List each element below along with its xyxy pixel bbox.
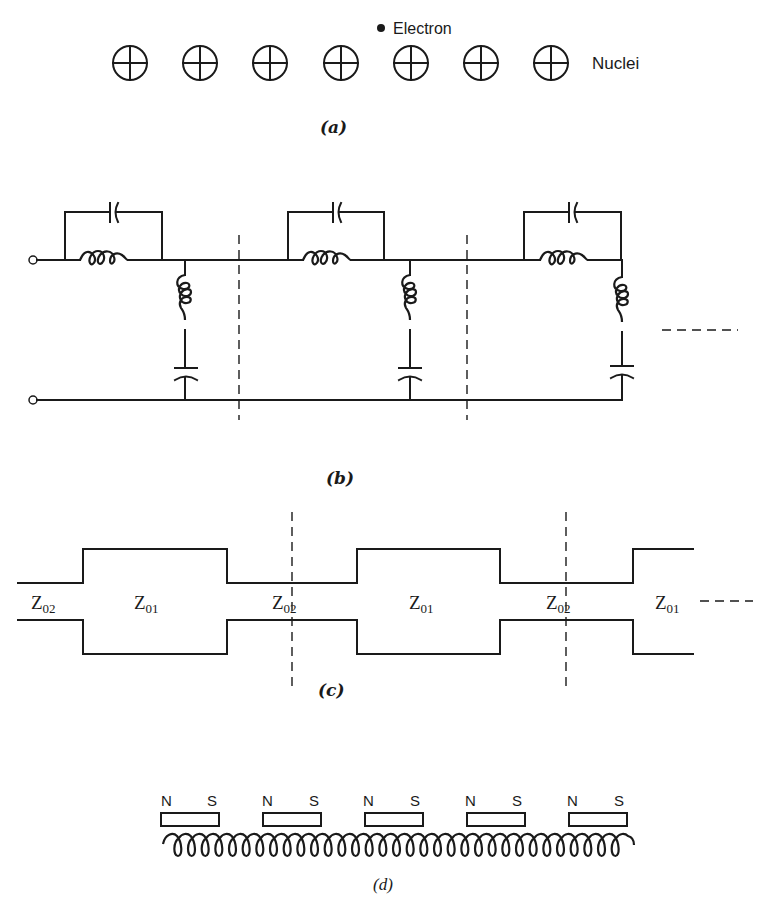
north-pole-label: N	[262, 792, 273, 809]
nucleus-icon	[113, 46, 147, 80]
bar-magnet: N S	[465, 792, 525, 826]
nucleus-icon	[324, 46, 358, 80]
north-pole-label: N	[161, 792, 172, 809]
nuclei-label: Nuclei	[592, 54, 639, 73]
caption-a: (a)	[320, 117, 347, 137]
impedance-label: Z02	[272, 592, 297, 616]
panel-c-stepped-line: Z02 Z01 Z02 Z01 Z02 Z01 (c)	[18, 512, 753, 700]
figure-canvas: Electron Nuclei (a)	[0, 0, 773, 914]
north-pole-label: N	[363, 792, 374, 809]
impedance-label: Z01	[134, 592, 159, 616]
magnet-bar-icon	[263, 813, 321, 826]
nucleus-icon	[464, 46, 498, 80]
magnet-bar-icon	[365, 813, 423, 826]
helical-electron-path	[163, 834, 634, 856]
ladder-section-3	[524, 203, 633, 400]
bar-magnet: N S	[161, 792, 219, 826]
caption-c: (c)	[318, 680, 344, 700]
nuclei-row	[113, 46, 568, 80]
series-tank-inductor-icon	[65, 251, 162, 264]
magnet-bar-icon	[569, 813, 627, 826]
upper-conductor	[18, 549, 693, 583]
ladder-section-2	[288, 203, 421, 400]
shunt-branch	[175, 260, 197, 400]
caption-b: (b)	[326, 468, 354, 488]
panel-a: Electron Nuclei (a)	[113, 20, 639, 137]
input-terminal-top-icon	[29, 256, 37, 264]
bar-magnet: N S	[363, 792, 423, 826]
nucleus-icon	[183, 46, 217, 80]
series-tank-inductor-icon	[524, 251, 621, 264]
electron-dot-icon	[377, 24, 385, 32]
panel-d-undulator: N S N S N S N S N S (d)	[161, 792, 634, 894]
series-tank-inductor-icon	[288, 251, 384, 264]
south-pole-label: S	[207, 792, 217, 809]
caption-d: (d)	[373, 875, 393, 894]
nucleus-icon	[534, 46, 568, 80]
bar-magnet: N S	[567, 792, 627, 826]
impedance-label: Z01	[655, 592, 680, 616]
series-tank-capacitor-icon	[288, 203, 384, 260]
input-terminal-bottom-icon	[29, 396, 37, 404]
shunt-branch	[399, 260, 421, 400]
lower-conductor	[18, 620, 693, 654]
south-pole-label: S	[309, 792, 319, 809]
south-pole-label: S	[410, 792, 420, 809]
shunt-branch	[611, 260, 633, 400]
electron-label: Electron	[393, 20, 452, 37]
impedance-label: Z02	[31, 592, 56, 616]
nucleus-icon	[394, 46, 428, 80]
impedance-label: Z02	[546, 592, 571, 616]
panel-b-ladder-network: (b)	[29, 203, 738, 488]
nucleus-icon	[253, 46, 287, 80]
magnet-bar-icon	[467, 813, 525, 826]
bar-magnet: N S	[262, 792, 321, 826]
ladder-section-1	[65, 203, 197, 400]
south-pole-label: S	[512, 792, 522, 809]
series-tank-capacitor-icon	[524, 203, 621, 260]
magnet-bar-icon	[161, 813, 219, 826]
impedance-label: Z01	[409, 592, 434, 616]
series-tank-capacitor-icon	[65, 203, 162, 260]
north-pole-label: N	[567, 792, 578, 809]
north-pole-label: N	[465, 792, 476, 809]
south-pole-label: S	[614, 792, 624, 809]
